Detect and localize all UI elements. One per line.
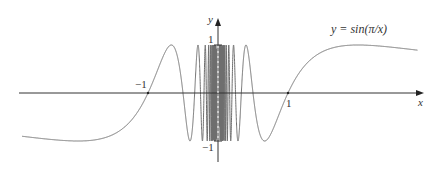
y-tick-label-neg1: −1	[202, 142, 214, 153]
function-label-text: y = sin(π/x)	[331, 22, 387, 36]
y-axis-label: y	[208, 14, 213, 25]
x-tick-label-neg1: −1	[135, 79, 147, 90]
function-label: y = sin(π/x)	[331, 23, 387, 35]
x-axis-label: x	[418, 97, 423, 108]
y-tick-label-1: 1	[208, 34, 214, 45]
x-tick-label-1: 1	[286, 98, 292, 109]
x-tick-1-dot	[287, 92, 289, 94]
x-tick-neg1-dot	[147, 92, 149, 94]
y-axis-arrow-icon	[215, 18, 221, 26]
